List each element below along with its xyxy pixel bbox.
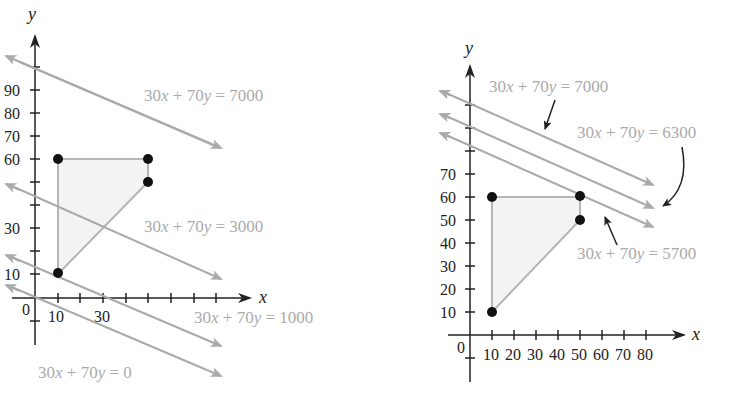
x-tick-label-40-right: 40 [549, 346, 565, 363]
pointer-arrow-7000 [545, 100, 555, 129]
y-tick-label-70-right: 70 [440, 166, 456, 183]
objective-line-7000-left-tip [20, 62, 221, 148]
y-tick-label-50-right: 50 [440, 212, 456, 229]
feasible-region-right [492, 197, 580, 312]
y-tick-label-30-right: 30 [440, 258, 456, 275]
x-tick-labels-right: 10 20 30 40 50 60 70 80 [483, 346, 653, 363]
origin-label-left: 0 [22, 301, 30, 318]
y-tick-label-30: 30 [4, 220, 20, 237]
x-tick-label-80-right: 80 [637, 346, 653, 363]
x-tick-label-10: 10 [48, 308, 64, 325]
left-graph: 90 80 70 60 30 10 0 10 30 x y 30x + 70y … [4, 4, 313, 382]
y-tick-label-20-right: 20 [440, 281, 456, 298]
vertex-50-50-right [575, 215, 585, 225]
equation-label-1000-left: 30x + 70y = 1000 [194, 308, 313, 327]
vertex-10-60-right [487, 192, 497, 202]
y-tick-label-90: 90 [4, 82, 20, 99]
diagram-canvas: 90 80 70 60 30 10 0 10 30 x y 30x + 70y … [0, 0, 734, 394]
y-axis-label-right: y [463, 38, 473, 58]
y-tick-label-40-right: 40 [440, 235, 456, 252]
vertex-10-10-left [53, 268, 63, 278]
vertex-50-60-left [143, 154, 153, 164]
equation-label-7000-right: 30x + 70y = 7000 [489, 77, 608, 96]
y-axis-label-left: y [26, 4, 36, 24]
x-tick-label-30-right: 30 [527, 346, 543, 363]
x-axis-label-left: x [258, 287, 267, 307]
vertex-10-10-right [487, 307, 497, 317]
right-graph: 70 60 50 40 30 20 10 0 10 20 30 40 50 60… [440, 38, 700, 382]
y-tick-label-80: 80 [4, 105, 20, 122]
equation-label-7000-left: 30x + 70y = 7000 [144, 86, 263, 105]
feasible-region-left [58, 159, 148, 274]
equation-label-5700-right: 30x + 70y = 5700 [577, 244, 696, 263]
equation-label-6300-right: 30x + 70y = 6300 [577, 123, 696, 142]
y-tick-label-60-right: 60 [440, 189, 456, 206]
pointer-arrow-5700 [605, 217, 617, 245]
x-tick-label-60-right: 60 [593, 346, 609, 363]
pointer-arrow-6300 [663, 147, 684, 206]
vertex-50-60-right [575, 191, 585, 201]
equation-label-0-left: 30x + 70y = 0 [38, 363, 132, 382]
x-tick-label-20-right: 20 [505, 346, 521, 363]
x-tick-label-70-right: 70 [615, 346, 631, 363]
y-tick-label-60: 60 [4, 151, 20, 168]
origin-label-right: 0 [457, 339, 465, 356]
x-tick-label-10-right: 10 [483, 346, 499, 363]
equation-label-3000-left: 30x + 70y = 3000 [144, 217, 263, 236]
y-tick-label-70: 70 [4, 128, 20, 145]
vertex-50-50-left [143, 177, 153, 187]
y-tick-label-10: 10 [4, 266, 20, 283]
vertex-10-60-left [53, 154, 63, 164]
x-axis-label-right: x [691, 324, 700, 344]
x-tick-label-50-right: 50 [571, 346, 587, 363]
y-tick-label-10-right: 10 [440, 304, 456, 321]
